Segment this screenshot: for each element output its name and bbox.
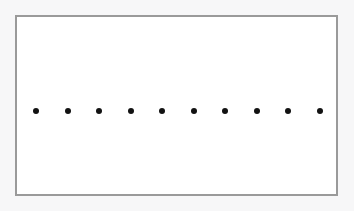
plot-border-rectangle [15, 15, 338, 196]
data-point-dot [317, 108, 323, 114]
data-point-dot [222, 108, 228, 114]
data-point-dot [65, 108, 71, 114]
figure-root [0, 0, 354, 211]
data-point-dot [33, 108, 39, 114]
data-point-dot [96, 108, 102, 114]
data-point-dot [128, 108, 134, 114]
data-point-dot [159, 108, 165, 114]
data-point-dot [285, 108, 291, 114]
data-point-dot [254, 108, 260, 114]
dot-series-layer [17, 17, 336, 194]
data-point-dot [191, 108, 197, 114]
